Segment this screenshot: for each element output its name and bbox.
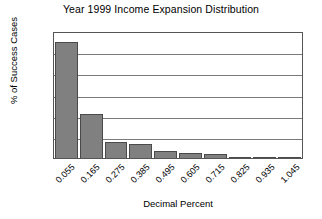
- x-tick-label: 0.275: [103, 162, 126, 185]
- x-tick-label: 1.045: [278, 162, 301, 185]
- x-label-slot: 0.935: [253, 160, 278, 200]
- plot-area: [53, 32, 303, 159]
- bar[interactable]: [154, 151, 177, 158]
- x-tick-label: 0.825: [228, 162, 251, 185]
- x-tick-label: 0.385: [128, 162, 151, 185]
- bar[interactable]: [55, 42, 78, 158]
- x-axis-tick-labels: 0.0550.1650.2750.3850.4950.6050.7150.825…: [53, 160, 303, 200]
- bar-slot: [54, 33, 79, 158]
- x-label-slot: 0.825: [228, 160, 253, 200]
- x-tick-label: 0.165: [78, 162, 101, 185]
- bar[interactable]: [80, 114, 103, 158]
- x-tick-label: 0.935: [253, 162, 276, 185]
- x-label-slot: 0.275: [103, 160, 128, 200]
- bar-slot: [228, 33, 253, 158]
- x-label-slot: 0.495: [153, 160, 178, 200]
- bar[interactable]: [253, 157, 276, 158]
- x-label-slot: 0.385: [128, 160, 153, 200]
- chart-container: Year 1999 Income Expansion Distribution …: [0, 0, 322, 219]
- y-axis-ticks: 0102030405060: [0, 0, 53, 219]
- bar-slot: [203, 33, 228, 158]
- x-tick-label: 0.715: [203, 162, 226, 185]
- x-tick-label: 0.055: [53, 162, 76, 185]
- x-label-slot: 0.055: [53, 160, 78, 200]
- bar-slot: [252, 33, 277, 158]
- x-tick-label: 0.495: [153, 162, 176, 185]
- bar-series: [54, 33, 302, 158]
- bar[interactable]: [204, 154, 227, 158]
- bar-slot: [79, 33, 104, 158]
- bar[interactable]: [105, 142, 128, 158]
- x-tick-label: 0.605: [178, 162, 201, 185]
- x-label-slot: 1.045: [278, 160, 303, 200]
- bar-slot: [104, 33, 129, 158]
- bar[interactable]: [129, 144, 152, 158]
- x-label-slot: 0.165: [78, 160, 103, 200]
- bar[interactable]: [229, 157, 252, 158]
- bar-slot: [277, 33, 302, 158]
- x-label-slot: 0.605: [178, 160, 203, 200]
- bar-slot: [178, 33, 203, 158]
- bar[interactable]: [278, 157, 301, 158]
- bar[interactable]: [179, 153, 202, 158]
- bar-slot: [128, 33, 153, 158]
- x-axis-label: Decimal Percent: [53, 198, 303, 209]
- x-label-slot: 0.715: [203, 160, 228, 200]
- bar-slot: [153, 33, 178, 158]
